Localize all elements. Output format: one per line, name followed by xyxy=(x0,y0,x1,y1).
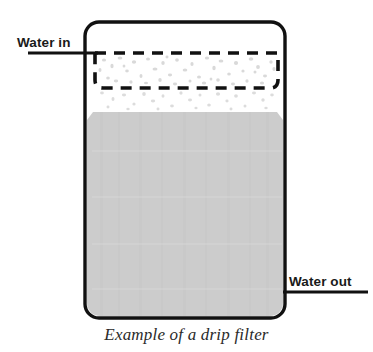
drip-filter-diagram xyxy=(0,0,373,352)
water-fill xyxy=(87,112,283,316)
water-in-label: Water in xyxy=(17,35,71,50)
drip-filter-figure: Water in Water out Example of a drip fil… xyxy=(0,0,373,352)
water-out-label: Water out xyxy=(289,274,352,289)
dripping-particles xyxy=(100,91,274,110)
coffee-grounds-speckles xyxy=(99,56,276,86)
figure-caption: Example of a drip filter xyxy=(0,325,373,345)
